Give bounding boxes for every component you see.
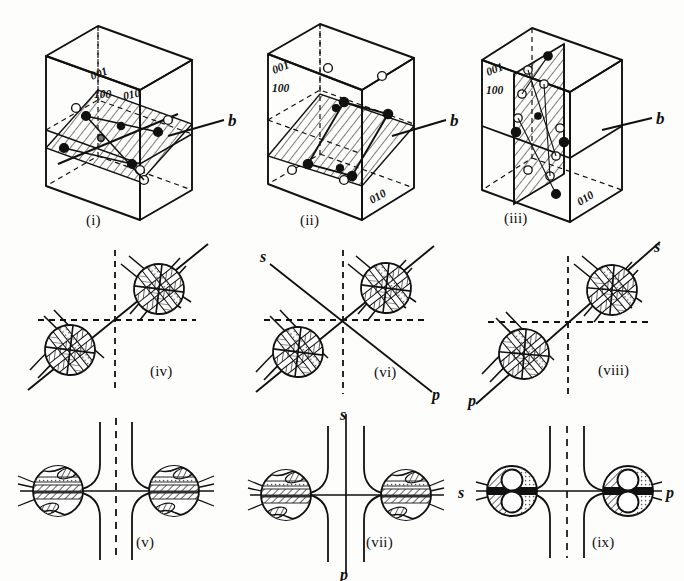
caption-ix: (ix) <box>592 534 614 551</box>
melatope-right-vii <box>376 461 436 529</box>
panel-vii: s p <box>238 406 453 581</box>
miller-index-100-iii: 100 <box>486 84 504 96</box>
panel-i: 001 100 010 b <box>28 8 248 238</box>
panel-v <box>8 412 223 577</box>
panel-vi: s p <box>236 242 451 407</box>
axis-label-p-vii: p <box>338 566 348 581</box>
miller-index-100-ii: 100 <box>272 82 290 94</box>
melatope-upper-vi <box>344 246 428 330</box>
panel-iii: 001 100 010 b <box>452 8 677 238</box>
caption-viii: (viii) <box>598 362 629 379</box>
panel-iv <box>8 242 223 397</box>
axis-label-s-ix: s <box>457 484 464 501</box>
caption-i: (i) <box>86 212 101 229</box>
caption-v: (v) <box>136 534 154 551</box>
caption-iii: (iii) <box>504 210 528 227</box>
axis-label-p-ix: p <box>664 484 674 502</box>
melatope-upper-viii <box>570 248 655 333</box>
figure-plate: 001 100 010 b (i) <box>0 0 684 581</box>
melatope-right-ix <box>602 465 654 517</box>
melatope-left-ix <box>486 465 538 517</box>
panel-ii: 001 100 010 b <box>248 8 468 238</box>
panel-ix: s p <box>456 412 678 577</box>
melatope-left-vii <box>256 461 316 529</box>
caption-iv: (iv) <box>150 363 172 380</box>
melatope-right-v <box>144 457 204 525</box>
miller-index-010: 010 <box>122 87 142 102</box>
axis-label-p-viii: p <box>466 392 476 410</box>
axis-label-s-viii: s <box>653 238 660 255</box>
melatope-lower-viii <box>482 312 567 397</box>
miller-index-010-iii: 010 <box>575 188 596 207</box>
isogyre-right-upper-ix <box>584 426 606 491</box>
axis-label-p-vi: p <box>430 386 440 404</box>
twin-label-b-i: b <box>228 111 237 130</box>
caption-vi: (vi) <box>374 364 396 381</box>
twin-label-b-iii: b <box>656 109 665 128</box>
melatope-left-v <box>28 457 88 525</box>
panel-viii: s p <box>458 238 678 408</box>
miller-index-010-ii: 010 <box>367 187 388 206</box>
miller-index-100: 100 <box>94 88 112 100</box>
axis-label-s-vii: s <box>339 406 346 423</box>
caption-ii: (ii) <box>300 212 319 229</box>
axis-label-s-vi: s <box>259 248 266 265</box>
caption-vii: (vii) <box>366 534 393 551</box>
miller-index-001: 001 <box>89 65 109 82</box>
twin-leader-line-iii <box>602 118 652 130</box>
